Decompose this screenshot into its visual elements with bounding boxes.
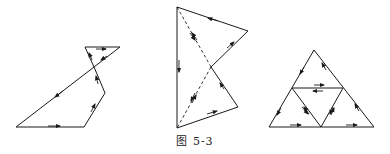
dashed-diagonal <box>177 7 211 67</box>
diagram-canvas <box>0 0 390 154</box>
figure-middle <box>177 7 248 128</box>
orientation-arrow-icon <box>96 76 98 84</box>
orientation-arrow-icon <box>207 111 217 114</box>
orientation-arrow-icon <box>300 67 304 74</box>
orientation-arrow-icon <box>208 18 218 21</box>
polygon-outline <box>292 88 343 127</box>
orientation-arrow-icon <box>192 95 196 103</box>
polygon-outline <box>177 7 248 128</box>
polygon-outline <box>16 67 105 127</box>
orientation-arrow-icon <box>55 91 63 97</box>
figure-right <box>269 50 374 127</box>
figure-caption: 图 5-3 <box>0 132 390 148</box>
figure-left <box>16 47 120 127</box>
dashed-diagonal <box>177 67 211 128</box>
